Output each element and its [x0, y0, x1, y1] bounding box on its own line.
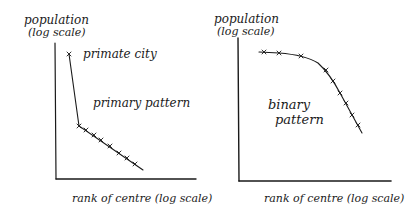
diagram-drawing: [0, 0, 414, 217]
right-rank-size-curve: [259, 52, 362, 133]
left-rank-size-curve: [69, 54, 143, 170]
left-y-axis: [55, 43, 56, 179]
right-data-markers: [262, 50, 360, 127]
right-y-axis: [238, 38, 239, 181]
left-data-markers: [67, 52, 137, 166]
